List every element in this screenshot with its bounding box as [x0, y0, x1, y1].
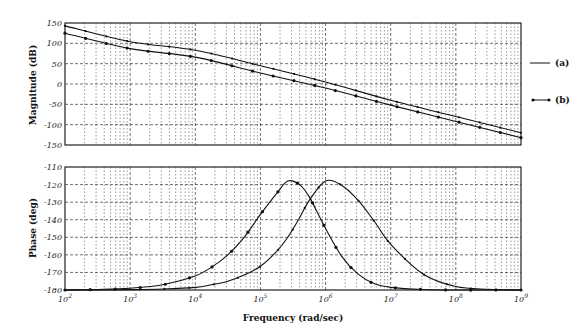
x-tick-label: 105 [253, 292, 267, 304]
legend-marker-icon [531, 98, 534, 101]
data-marker [478, 126, 481, 129]
data-marker [375, 100, 378, 103]
y-tick-label: 50 [52, 60, 62, 69]
y-tick-label: -160 [44, 251, 62, 260]
data-marker [168, 46, 170, 48]
data-marker [64, 25, 66, 27]
data-marker [89, 288, 92, 291]
data-marker [446, 283, 448, 285]
y-tick-label: -150 [44, 141, 62, 150]
y-tick-label: -50 [49, 100, 62, 109]
data-marker [85, 30, 87, 32]
data-marker [105, 35, 107, 37]
data-marker [494, 288, 497, 291]
frequency-axis-label: Frequency (rad/sec) [243, 313, 344, 323]
data-marker [395, 105, 398, 108]
data-marker [311, 201, 314, 204]
data-marker [147, 50, 150, 53]
data-marker [469, 288, 472, 291]
data-marker [444, 288, 447, 291]
magnitude-panel: -150-100-50050100150 [44, 19, 523, 150]
data-marker [334, 246, 337, 249]
data-marker [252, 63, 254, 65]
data-marker [519, 288, 522, 291]
data-marker [404, 258, 406, 260]
y-tick-label: -100 [44, 121, 62, 130]
data-marker [423, 274, 425, 276]
data-marker [188, 276, 191, 279]
data-marker [520, 132, 522, 134]
data-marker [272, 68, 274, 70]
data-marker [114, 287, 117, 290]
data-marker [394, 286, 397, 289]
y-tick-label: -140 [44, 216, 62, 225]
data-marker [304, 207, 306, 209]
data-marker [231, 57, 233, 59]
data-marker [457, 121, 460, 124]
data-marker [416, 106, 418, 108]
data-marker [349, 266, 352, 269]
data-marker [164, 283, 167, 286]
data-marker [396, 101, 398, 103]
bode-plot: -150-100-50050100150 -180-170-160-150-14… [0, 0, 586, 331]
y-tick-label: -130 [44, 198, 62, 207]
data-marker [84, 37, 87, 40]
data-marker [259, 266, 261, 268]
data-marker [125, 46, 128, 49]
y-tick-label: -170 [44, 268, 62, 277]
data-marker [63, 32, 66, 35]
data-marker [292, 229, 294, 231]
data-marker [163, 288, 165, 290]
data-marker [63, 288, 66, 291]
data-marker [276, 190, 279, 193]
curve-a [65, 180, 521, 290]
data-marker [334, 89, 337, 92]
y-tick-label: -150 [44, 233, 62, 242]
data-marker [339, 183, 341, 185]
data-marker [437, 115, 440, 118]
data-marker [272, 74, 275, 77]
data-marker [105, 42, 108, 45]
data-marker [375, 95, 377, 97]
legend-label-b: (b) [555, 95, 570, 105]
data-marker [261, 210, 264, 213]
data-marker [210, 59, 213, 62]
data-marker [230, 64, 233, 67]
data-marker [437, 111, 439, 113]
phase-panel: -180-170-160-150-140-130-120-11010210310… [44, 163, 528, 304]
data-marker [293, 73, 295, 75]
y-tick-label: -180 [44, 286, 62, 295]
data-marker [499, 127, 501, 129]
y-tick-label: -110 [44, 163, 62, 172]
legend-item-a: (a) [530, 58, 569, 68]
data-marker [499, 131, 502, 134]
data-marker [314, 78, 316, 80]
data-marker [369, 281, 372, 284]
data-marker [277, 249, 279, 251]
y-tick-label: 100 [47, 39, 62, 48]
y-tick-label: 150 [47, 19, 62, 28]
data-marker [189, 55, 192, 58]
data-marker [387, 240, 389, 242]
data-marker [213, 283, 215, 285]
curve-b [65, 181, 521, 290]
legend-item-b: (b) [531, 95, 569, 105]
data-marker [354, 94, 357, 97]
data-marker [373, 219, 375, 221]
x-tick-label: 109 [514, 292, 528, 304]
data-marker [519, 136, 522, 139]
x-tick-label: 107 [384, 292, 398, 304]
data-marker [188, 287, 190, 289]
x-tick-label: 103 [123, 292, 137, 304]
data-marker [126, 40, 128, 42]
data-marker [357, 200, 359, 202]
data-marker [210, 52, 212, 54]
legend-label-a: (a) [555, 58, 569, 68]
data-marker [334, 84, 336, 86]
data-marker [479, 121, 481, 123]
legend: (a) (b) [530, 58, 570, 105]
data-marker [318, 186, 320, 188]
data-marker [355, 89, 357, 91]
data-marker [210, 265, 213, 268]
data-marker [458, 116, 460, 118]
